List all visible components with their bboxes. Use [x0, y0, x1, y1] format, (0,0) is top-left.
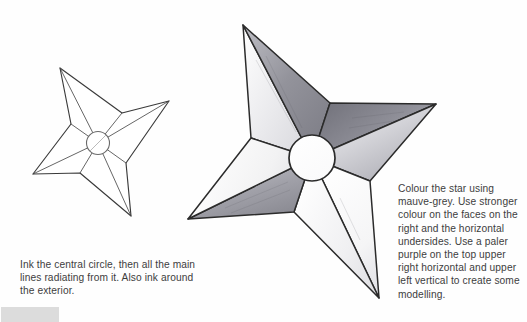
page-corner-swatch	[1, 307, 59, 322]
illustration-canvas: Ink the central circle, then all the mai…	[0, 0, 527, 322]
large-star-central-circle	[289, 135, 335, 181]
colour-instruction-caption: Colour the star using mauve-grey. Use st…	[398, 182, 522, 301]
ink-instruction-caption: Ink the central circle, then all the mai…	[20, 258, 200, 298]
small-star-figure	[33, 68, 169, 216]
